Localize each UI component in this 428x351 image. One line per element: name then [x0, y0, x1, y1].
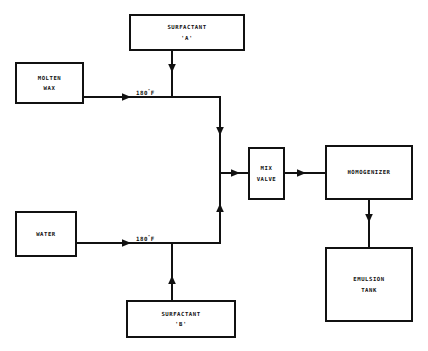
node-mix-valve-label: MIX VALVE	[257, 163, 277, 184]
temp-bottom-value: 180	[136, 236, 148, 242]
node-surfactant-b-label: SURFACTANT 'B'	[161, 309, 200, 330]
edge-riser-top-down	[216, 96, 224, 174]
node-mix-valve[interactable]: MIX VALVE	[248, 147, 285, 200]
temp-bottom-unit: F	[151, 236, 155, 242]
temperature-label-top: 180°F	[135, 90, 156, 96]
node-surfactant-a[interactable]: SURFACTANT 'A'	[129, 14, 245, 51]
node-emulsion-tank[interactable]: EMULSION TANK	[325, 247, 413, 322]
edge-riser-bottom-up	[216, 173, 224, 244]
edge-surfactant-a-to-wax-line	[168, 50, 176, 97]
node-emulsion-tank-label: EMULSION TANK	[353, 274, 384, 295]
node-water-label: WATER	[36, 229, 56, 239]
node-water[interactable]: WATER	[15, 211, 77, 257]
node-homogenizer-label: HOMOGENIZER	[347, 167, 390, 177]
temp-top-unit: F	[151, 90, 155, 96]
edge-homogenizer-to-emulsion-tank	[365, 200, 373, 248]
node-homogenizer[interactable]: HOMOGENIZER	[325, 145, 413, 200]
temp-top-value: 180	[136, 90, 148, 96]
temperature-label-bottom: 180°F	[135, 236, 156, 242]
node-molten-wax-label: MOLTEN WAX	[38, 73, 62, 94]
process-flow-diagram: SURFACTANT 'A' MOLTEN WAX WATER SURFACTA…	[0, 0, 428, 351]
node-molten-wax[interactable]: MOLTEN WAX	[15, 62, 84, 104]
node-surfactant-b[interactable]: SURFACTANT 'B'	[126, 300, 236, 338]
edge-riser-to-mix-valve	[219, 169, 249, 176]
node-surfactant-a-label: SURFACTANT 'A'	[167, 22, 206, 43]
edge-mix-valve-to-homogenizer	[285, 169, 326, 176]
edge-surfactant-b-to-water-line	[168, 243, 176, 300]
